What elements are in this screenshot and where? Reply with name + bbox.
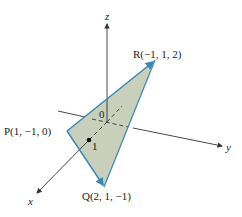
z-axis-label: z <box>104 10 110 22</box>
diagram-canvas: z y x 0 1 R(−1, 1, 2) P(1, −1, 0) Q(2, 1… <box>0 0 242 217</box>
tick-label-1: 1 <box>92 140 98 152</box>
x-axis <box>37 140 89 193</box>
y-axis <box>133 128 222 146</box>
origin-label: 0 <box>99 108 105 120</box>
y-axis-label: y <box>225 141 231 153</box>
triangle-plane <box>67 60 155 187</box>
x-axis-label: x <box>27 195 33 207</box>
tick-point-1 <box>87 138 92 143</box>
y-axis-back <box>58 111 85 117</box>
point-label-q: Q(2, 1, −1) <box>82 190 131 203</box>
point-label-r: R(−1, 1, 2) <box>133 48 182 61</box>
point-label-p: P(1, −1, 0) <box>4 125 51 138</box>
triangle-plane-diagram: z y x 0 1 R(−1, 1, 2) P(1, −1, 0) Q(2, 1… <box>0 0 242 217</box>
